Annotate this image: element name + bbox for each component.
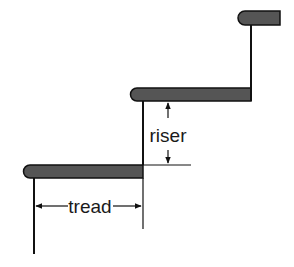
middle-tread (131, 88, 252, 101)
stair-diagram: tread riser (0, 0, 294, 267)
riser-label: riser (150, 125, 188, 146)
bottom-tread (24, 165, 144, 178)
top-tread (238, 11, 280, 25)
tread-label: tread (68, 196, 111, 217)
